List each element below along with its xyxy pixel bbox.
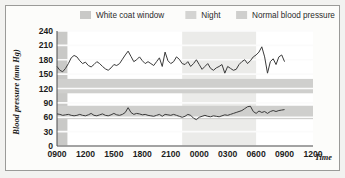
x-tick-label: 1200 [76,149,95,159]
x-tick-label: 0900 [275,149,294,159]
x-tick-label: 0600 [247,149,266,159]
y-axis-tick-labels: 0306090120150180210240 [39,26,54,151]
x-tick-label: 2100 [161,149,180,159]
y-tick-label: 150 [39,69,54,79]
legend-item-normal-blood-pressure: Normal blood pressure [236,11,335,20]
y-tick-label: 30 [43,127,53,137]
legend-item-white-coat-window: White coat window [80,11,164,20]
x-tick-label: 0000 [190,149,209,159]
y-tick-label: 240 [39,26,54,36]
x-axis-title: Time [315,153,333,162]
figure-container: 0306090120150180210240 09001200150018002… [0,0,345,178]
legend-swatch-white-coat-window [80,11,91,19]
band-normal-systolic [57,79,313,93]
x-tick-label: 1500 [104,149,123,159]
blood-pressure-chart: 0306090120150180210240 09001200150018002… [0,0,345,178]
legend-swatch-night [185,11,196,19]
y-axis-title: Blood pressure (mm Hg) [12,49,21,136]
y-tick-label: 60 [43,112,53,122]
legend-item-night: Night [185,11,221,20]
legend-label-normal-blood-pressure: Normal blood pressure [252,11,335,20]
x-axis-tick-labels: 0900120015001800210000000300060009001200 [47,149,322,159]
x-tick-label: 1800 [133,149,152,159]
y-tick-label: 180 [39,55,54,65]
legend-label-white-coat-window: White coat window [96,11,164,20]
legend-label-night: Night [201,11,221,20]
legend-swatch-normal-blood-pressure [236,11,247,19]
y-tick-label: 90 [43,98,53,108]
x-tick-label: 0300 [218,149,237,159]
y-tick-label: 120 [39,84,54,94]
chart-legend: White coat windowNightNormal blood press… [80,11,335,20]
y-tick-label: 210 [39,40,54,50]
x-tick-label: 0900 [47,149,66,159]
